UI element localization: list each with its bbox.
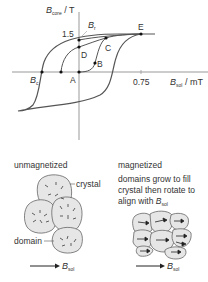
point-br bbox=[77, 38, 80, 41]
point-bc bbox=[40, 70, 43, 73]
point-a-label: A bbox=[70, 76, 76, 85]
crystal-left bbox=[24, 200, 56, 233]
magnetized-description: domains grow to fill crystal then rotate… bbox=[118, 174, 195, 210]
point-e-label: E bbox=[138, 23, 144, 32]
bsol-label-right: Bsol bbox=[167, 262, 179, 272]
x-tick-label: 0.75 bbox=[133, 78, 150, 87]
point-a bbox=[77, 70, 80, 73]
x-axis-label: Bsol / mT bbox=[170, 78, 203, 88]
point-d bbox=[77, 45, 80, 48]
point-left bbox=[59, 70, 62, 73]
domain-label: domain bbox=[14, 237, 42, 246]
bsol-label-left: Bsol bbox=[62, 262, 74, 272]
crystal-label: crystal bbox=[76, 180, 101, 189]
bc-label: Bc bbox=[30, 76, 39, 86]
hysteresis-graph bbox=[0, 0, 208, 140]
point-c bbox=[104, 36, 107, 39]
crystal-top bbox=[37, 175, 71, 208]
crystal-bottom bbox=[52, 227, 82, 253]
point-e bbox=[139, 32, 142, 35]
br-label: Br bbox=[88, 21, 96, 31]
point-b-label: B bbox=[97, 60, 103, 69]
point-c-label: C bbox=[105, 44, 111, 53]
point-d-label: D bbox=[81, 51, 87, 60]
unmagnetized-title: unmagnetized bbox=[14, 160, 67, 171]
magnetized-title: magnetized bbox=[118, 160, 162, 171]
initial-curve bbox=[79, 34, 141, 72]
y-tick-label: 1.5 bbox=[62, 30, 74, 39]
y-axis-label: Bcore / T bbox=[46, 6, 75, 16]
crystal-right bbox=[52, 197, 82, 232]
